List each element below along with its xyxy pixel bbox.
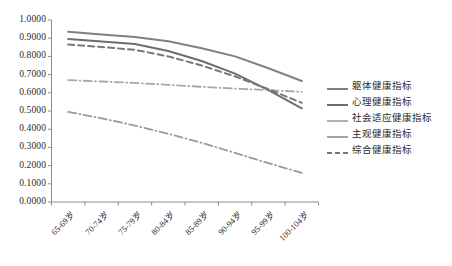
legend-item-label: 躯体健康指标 <box>352 81 412 91</box>
series-line-4 <box>68 112 302 173</box>
legend-item-label: 主观健康指标 <box>352 129 412 139</box>
y-tick-label: 0.4000 <box>0 123 46 133</box>
chart-legend: 躯体健康指标心理健康指标社会适应健康指标主观健康指标综合健康指标 <box>327 78 452 158</box>
legend-item-label: 社会适应健康指标 <box>352 113 432 123</box>
y-tick-label: 0.2000 <box>0 160 46 170</box>
y-tick-label: 0.5000 <box>0 105 46 115</box>
y-tick-label: 0.7000 <box>0 69 46 79</box>
series-line-3 <box>68 80 302 92</box>
series-line-5 <box>68 45 302 103</box>
line-chart: 0.00000.10000.20000.30000.40000.50000.60… <box>0 0 452 266</box>
y-tick-label: 0.0000 <box>0 196 46 206</box>
series-line-2 <box>68 39 302 108</box>
y-tick-label: 1.0000 <box>0 14 46 24</box>
legend-item-label: 综合健康指标 <box>352 145 412 155</box>
legend-item-3[interactable]: 社会适应健康指标 <box>327 110 452 126</box>
legend-item-4[interactable]: 主观健康指标 <box>327 126 452 142</box>
legend-item-1[interactable]: 躯体健康指标 <box>327 78 452 94</box>
y-tick-label: 0.9000 <box>0 32 46 42</box>
legend-item-label: 心理健康指标 <box>352 97 412 107</box>
y-tick-label: 0.6000 <box>0 87 46 97</box>
legend-item-2[interactable]: 心理健康指标 <box>327 94 452 110</box>
y-tick-label: 0.1000 <box>0 178 46 188</box>
legend-item-5[interactable]: 综合健康指标 <box>327 142 452 158</box>
y-tick-label: 0.3000 <box>0 141 46 151</box>
y-tick-label: 0.8000 <box>0 50 46 60</box>
